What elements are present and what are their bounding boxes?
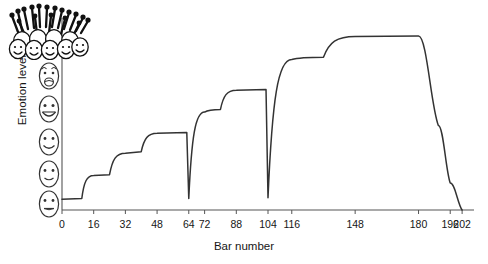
face-happy-icon xyxy=(36,93,62,129)
x-tick-label: 0 xyxy=(59,218,65,230)
emotion-level-chart: Emotion level Bar number xyxy=(0,0,488,264)
x-tick-label: 16 xyxy=(88,218,100,230)
x-axis-ticks xyxy=(62,210,462,214)
x-tick-label: 72 xyxy=(199,218,211,230)
x-tick-label: 88 xyxy=(230,218,242,230)
x-tick-label: 148 xyxy=(346,218,364,230)
x-tick-label: 180 xyxy=(410,218,428,230)
face-very-happy-icon xyxy=(36,60,62,96)
face-content-icon xyxy=(36,126,62,162)
x-tick-label: 64 xyxy=(183,218,195,230)
x-tick-label: 32 xyxy=(120,218,132,230)
x-tick-label: 48 xyxy=(151,218,163,230)
x-tick-label: 116 xyxy=(283,218,300,230)
emotion-level-curve xyxy=(62,36,462,210)
face-ecstatic-crowd-icon xyxy=(8,2,94,60)
x-tick-label: 202 xyxy=(453,218,471,230)
x-tick-label: 104 xyxy=(259,218,277,230)
